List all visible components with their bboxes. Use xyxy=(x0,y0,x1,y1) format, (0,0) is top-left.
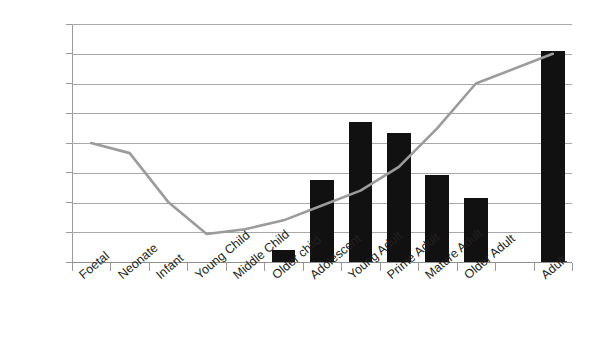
xtick-mark-0 xyxy=(72,263,73,271)
xtick-mark-4 xyxy=(226,263,227,271)
xtick-mark-7 xyxy=(341,263,342,271)
xtick-mark-1 xyxy=(110,263,111,271)
xtick-mark-11 xyxy=(495,263,496,271)
line-series-layer xyxy=(72,24,572,262)
xtick-mark-6 xyxy=(303,263,304,271)
chart-container: 40 35 30 25 20 15 10 5 0 FoetalNeonateIn… xyxy=(0,0,605,354)
line-series-svg xyxy=(72,24,572,262)
xtick-mark-10 xyxy=(457,263,458,271)
plot-area xyxy=(72,24,572,262)
xtick-mark-3 xyxy=(187,263,188,271)
xtick-mark-13 xyxy=(572,263,573,271)
xtick-mark-12 xyxy=(534,263,535,271)
xtick-mark-8 xyxy=(380,263,381,271)
trend-line xyxy=(91,54,553,234)
xtick-mark-9 xyxy=(418,263,419,271)
xtick-mark-2 xyxy=(149,263,150,271)
xtick-mark-5 xyxy=(264,263,265,271)
